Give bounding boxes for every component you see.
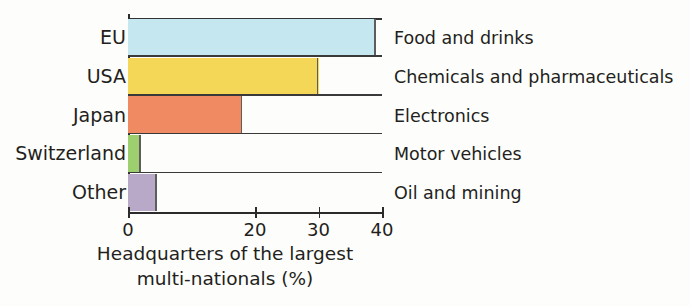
category-axis: EU USA Japan Switzerland Other (0, 18, 126, 212)
bar-edge-japan (241, 96, 242, 133)
series-label-electronics: Electronics (394, 107, 489, 125)
x-tick-mark-0 (128, 207, 130, 218)
bar-row-japan[interactable] (128, 96, 382, 135)
series-label-chemicals-and-pharmaceuticals: Chemicals and pharmaceuticals (394, 68, 673, 86)
bar-edge-usa (317, 58, 318, 95)
plot-area (128, 18, 382, 212)
x-tick-mark-40 (382, 207, 384, 218)
bar-row-switzerland[interactable] (128, 134, 382, 173)
axis-caption: Headquarters of the largest multi-nation… (60, 241, 390, 291)
category-label-other: Other (0, 183, 126, 202)
bar-edge-eu (374, 19, 375, 56)
caption-line-2: multi-nationals (%) (60, 266, 390, 291)
bar-edge-other (155, 174, 156, 211)
bar-eu[interactable] (128, 19, 376, 56)
category-label-switzerland: Switzerland (0, 144, 126, 163)
bar-usa[interactable] (128, 58, 319, 95)
x-tick-mark-30 (319, 207, 321, 218)
bar-row-eu[interactable] (128, 18, 382, 57)
caption-line-1: Headquarters of the largest (60, 241, 390, 266)
x-tick-label-30: 30 (307, 221, 330, 239)
x-tick-label-40: 40 (371, 221, 394, 239)
x-tick-label-0: 0 (122, 221, 133, 239)
bar-other[interactable] (128, 174, 157, 211)
series-label-oil-and-mining: Oil and mining (394, 184, 522, 202)
category-label-japan: Japan (0, 106, 126, 125)
bar-chart-figure: EU USA Japan Switzerland Other (0, 0, 690, 306)
bar-row-usa[interactable] (128, 57, 382, 96)
bar-japan[interactable] (128, 96, 242, 133)
bar-edge-switzerland (139, 135, 140, 172)
series-label-motor-vehicles: Motor vehicles (394, 145, 522, 163)
category-label-usa: USA (0, 67, 126, 86)
category-label-eu: EU (0, 28, 126, 47)
x-tick-mark-20 (255, 207, 257, 218)
x-tick-label-20: 20 (244, 221, 267, 239)
series-label-food-and-drinks: Food and drinks (394, 29, 534, 47)
